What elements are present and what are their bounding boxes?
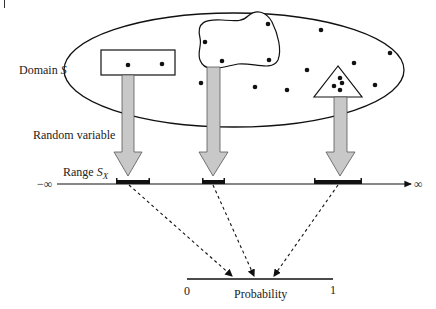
random-variable-label: Random variable (33, 129, 115, 141)
probability-label: Probability (234, 288, 287, 300)
probability-zero-label: 0 (184, 285, 190, 297)
random-variable-diagram (0, 0, 436, 309)
rectangle-event (101, 50, 175, 75)
range-segments (116, 178, 362, 184)
probability-one-label: 1 (330, 284, 336, 296)
negative-infinity-label: −∞ (37, 178, 52, 190)
domain-label: Domain S (19, 64, 67, 76)
blob-event (199, 12, 280, 69)
range-label: Range SX (63, 166, 108, 181)
probability-mapping-lines (129, 185, 338, 276)
positive-infinity-label: ∞ (414, 178, 423, 190)
